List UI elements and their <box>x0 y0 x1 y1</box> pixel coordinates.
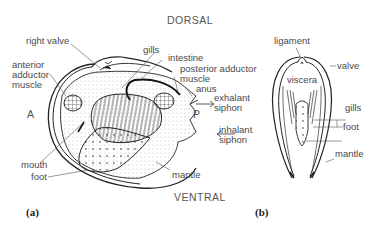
label-intestine: intestine <box>168 53 203 63</box>
label-dorsal: DORSAL <box>167 15 213 25</box>
label-mantle-b: mantle <box>335 149 364 159</box>
label-posterior: P <box>193 109 201 119</box>
label-ventral: VENTRAL <box>174 192 226 202</box>
label-anterior: A <box>27 109 35 119</box>
label-ligament: ligament <box>274 36 310 46</box>
label-exhalant-2: siphon <box>214 103 242 113</box>
label-anterior-adductor-3: muscle <box>12 80 42 90</box>
panel-label-b: (b) <box>255 207 268 217</box>
panel-label-a: (a) <box>26 207 39 217</box>
label-gills-a: gills <box>143 45 159 55</box>
label-foot-a: foot <box>31 172 47 182</box>
label-right-valve: right valve <box>26 36 69 46</box>
label-valve: valve <box>337 61 359 71</box>
label-inhalant-2: siphon <box>219 135 247 145</box>
label-mantle-a: mantle <box>172 170 201 180</box>
label-viscera: viscera <box>287 75 317 85</box>
label-mouth: mouth <box>21 160 47 170</box>
label-foot-b: foot <box>343 122 359 132</box>
label-gills-b: gills <box>345 103 361 113</box>
